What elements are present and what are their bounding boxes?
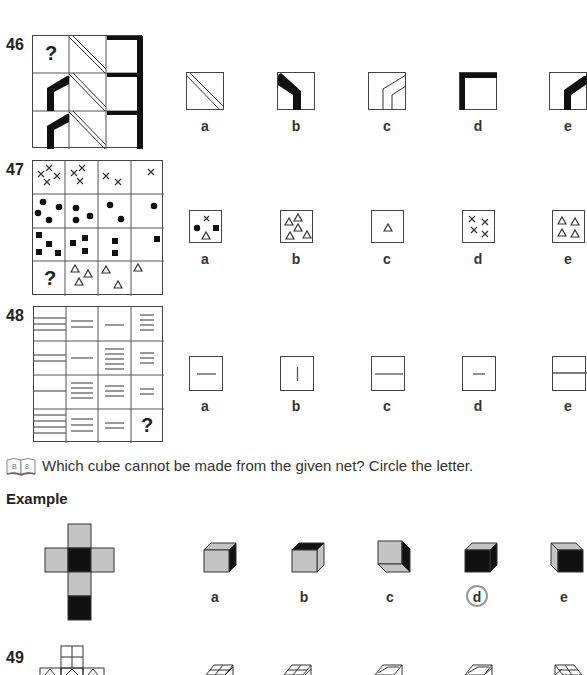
mixed-shapes-icon [190, 211, 223, 244]
q47-puzzle-grid: ? [32, 160, 163, 295]
q46-missing-mark: ? [45, 42, 57, 65]
q48-option-a-label[interactable]: a [190, 398, 220, 414]
tiny-line-icon [463, 357, 497, 392]
q47-option-d-box[interactable] [462, 210, 495, 243]
q46-option-c-box[interactable] [368, 72, 406, 110]
double-diagonal-icon [187, 73, 225, 111]
four-triangles-icon [553, 211, 586, 244]
svg-text:8: 8 [25, 463, 29, 470]
q49-cube-d[interactable] [464, 661, 494, 675]
q47-option-a-box[interactable] [189, 210, 222, 243]
vertical-line-icon [281, 357, 315, 392]
question-number-49: 49 [6, 649, 24, 667]
q47-option-e-label[interactable]: e [553, 251, 583, 267]
q46-option-e-label[interactable]: e [553, 118, 583, 134]
q48-missing-mark: ? [141, 414, 153, 437]
q46-option-a-label[interactable]: a [190, 118, 220, 134]
book-icon: B 8 [6, 456, 36, 476]
example-cube-b[interactable] [291, 538, 327, 574]
example-cube-net [45, 523, 115, 621]
q49-cube-net [40, 645, 105, 675]
q49-cube-b[interactable] [283, 661, 313, 675]
example-cube-d[interactable] [464, 538, 500, 574]
example-option-e-label[interactable]: e [549, 589, 579, 605]
example-option-b-label[interactable]: b [289, 589, 319, 605]
q47-option-a-label[interactable]: a [190, 251, 220, 267]
q49-cube-a[interactable] [205, 661, 235, 675]
q47-missing-mark: ? [44, 267, 56, 290]
q46-option-e-box[interactable] [549, 72, 587, 110]
q48-option-e-label[interactable]: e [553, 398, 583, 414]
q48-option-c-box[interactable] [371, 356, 405, 391]
q46-puzzle-grid: ? [32, 35, 142, 148]
instruction-text: Which cube cannot be made from the given… [42, 457, 473, 474]
five-triangles-icon [281, 211, 314, 244]
example-cube-e[interactable] [550, 538, 586, 574]
question-number-46: 46 [6, 36, 24, 54]
q49-cube-c[interactable] [374, 661, 404, 675]
example-cube-c[interactable] [377, 538, 413, 574]
q46-option-c-label[interactable]: c [372, 118, 402, 134]
q49-cube-e[interactable] [554, 661, 584, 675]
thick-corner-icon [460, 73, 498, 111]
q48-option-d-box[interactable] [462, 356, 496, 391]
q46-option-d-label[interactable]: d [463, 118, 493, 134]
svg-text:B: B [12, 463, 17, 470]
q47-option-c-box[interactable] [371, 210, 404, 243]
q47-option-d-label[interactable]: d [463, 251, 493, 267]
outlined-bent-bar-icon [369, 73, 407, 111]
example-cube-a[interactable] [203, 538, 239, 574]
q48-option-b-box[interactable] [280, 356, 314, 391]
q48-option-c-label[interactable]: c [372, 398, 402, 414]
short-line-icon [190, 357, 224, 392]
long-line-icon [372, 357, 406, 392]
example-option-a-label[interactable]: a [200, 589, 230, 605]
q46-option-a-box[interactable] [186, 72, 224, 110]
example-option-c-label[interactable]: c [375, 589, 405, 605]
q48-option-b-label[interactable]: b [281, 398, 311, 414]
q46-option-d-box[interactable] [459, 72, 497, 110]
q48-option-e-box[interactable] [552, 356, 586, 391]
q48-option-d-label[interactable]: d [463, 398, 493, 414]
q46-option-b-box[interactable] [277, 72, 315, 110]
q47-option-c-label[interactable]: c [372, 251, 402, 267]
thick-bent-bar-icon [278, 73, 316, 111]
q46-option-b-label[interactable]: b [281, 118, 311, 134]
q48-puzzle-grid: ? [33, 306, 163, 442]
four-crosses-icon [463, 211, 496, 244]
question-number-47: 47 [6, 161, 24, 179]
q47-option-b-box[interactable] [280, 210, 313, 243]
one-triangle-icon [372, 211, 405, 244]
example-heading: Example [6, 490, 68, 507]
divider-line-icon [553, 357, 587, 392]
example-option-d-label[interactable]: d [462, 589, 492, 605]
thick-bent-bar-right-icon [550, 73, 587, 111]
q48-option-a-box[interactable] [189, 356, 223, 391]
q47-option-e-box[interactable] [552, 210, 585, 243]
question-number-48: 48 [6, 307, 24, 325]
q47-option-b-label[interactable]: b [281, 251, 311, 267]
